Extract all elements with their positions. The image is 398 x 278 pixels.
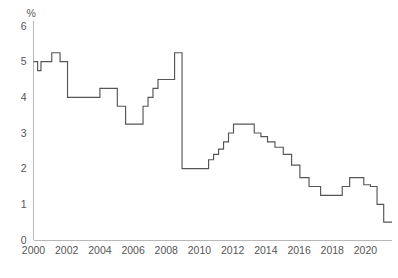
x-tick-label: 2000 [22, 244, 46, 256]
y-tick-label: 3 [21, 127, 27, 139]
x-tick-label: 2014 [254, 244, 278, 256]
line-chart: 0123456 20002002200420062008201020122014… [0, 0, 398, 278]
x-tick-label: 2010 [188, 244, 212, 256]
x-tick-label: 2020 [354, 244, 378, 256]
x-axis-tick-labels: 2000200220042006200820102012201420162018… [22, 244, 377, 256]
y-axis-unit-label: % [27, 7, 36, 19]
x-tick-label: 2002 [55, 244, 79, 256]
chart-container: 0123456 20002002200420062008201020122014… [0, 0, 398, 278]
x-tick-label: 2018 [321, 244, 345, 256]
x-tick-label: 2016 [287, 244, 311, 256]
plot-area: 0123456 20002002200420062008201020122014… [21, 7, 392, 256]
y-tick-label: 5 [21, 55, 27, 67]
x-tick-label: 2008 [155, 244, 179, 256]
x-tick-label: 2012 [221, 244, 245, 256]
y-axis-tick-labels: 0123456 [21, 20, 27, 246]
x-tick-label: 2006 [121, 244, 145, 256]
x-tick-label: 2004 [88, 244, 112, 256]
y-tick-label: 6 [21, 20, 27, 32]
y-tick-label: 1 [21, 198, 27, 210]
policy-rate-series-line [34, 53, 393, 222]
y-tick-label: 2 [21, 162, 27, 174]
y-tick-label: 4 [21, 91, 27, 103]
